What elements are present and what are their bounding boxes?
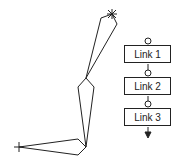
link-3-box: Link 3	[124, 108, 171, 126]
joint-circle-icon	[145, 101, 151, 107]
link-1-shape	[86, 14, 117, 78]
joint-circle-icon	[145, 38, 151, 44]
link-3-label: Link 3	[134, 112, 161, 123]
joint-circle-icon	[145, 70, 151, 76]
link-3-shape	[19, 139, 86, 155]
link-2-shape	[78, 78, 94, 147]
link-2-box: Link 2	[124, 77, 171, 95]
arrow-down-icon	[145, 132, 151, 138]
link-1-label: Link 1	[134, 49, 161, 60]
link-1-box: Link 1	[124, 45, 171, 63]
link-2-label: Link 2	[134, 81, 161, 92]
end-effector-star-icon	[107, 9, 117, 19]
base-cross-icon	[14, 142, 24, 152]
